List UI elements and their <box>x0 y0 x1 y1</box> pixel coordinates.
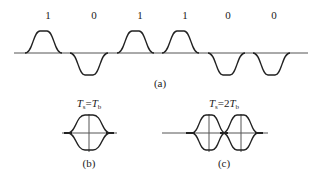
caption-b: (b) <box>83 158 96 169</box>
condition-c-eq: =2 <box>218 97 230 109</box>
condition-c-rhs-sub: b <box>236 103 240 111</box>
condition-b-rhs-sub: b <box>98 103 102 111</box>
caption-a: (a) <box>154 78 166 89</box>
condition-c: Ts=2Tb <box>209 98 239 111</box>
condition-b: Ts=Tb <box>77 98 102 111</box>
bit-label-3: 1 <box>137 10 143 21</box>
eye-diagram-b <box>62 114 117 152</box>
bit-label-5: 0 <box>225 10 231 21</box>
bit-label-4: 1 <box>182 10 188 21</box>
diagram-canvas <box>0 0 320 182</box>
eye-diagram-c <box>162 114 268 152</box>
bit-label-6: 0 <box>271 10 277 21</box>
caption-c: (c) <box>218 158 230 169</box>
bit-label-2: 0 <box>91 10 97 21</box>
bit-label-1: 1 <box>45 10 51 21</box>
